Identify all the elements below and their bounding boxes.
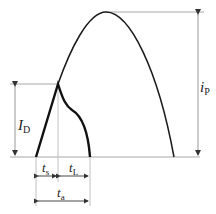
peak-current-curve	[58, 12, 174, 157]
ip-label: iP	[200, 79, 210, 97]
waveform-diagram: ID iP ts tL ta	[0, 0, 216, 214]
ts-label: ts	[42, 160, 50, 177]
tl-label: tL	[69, 160, 78, 177]
ta-label: ta	[57, 185, 65, 202]
id-label: ID	[17, 117, 30, 135]
diode-current-pulse	[36, 84, 90, 157]
